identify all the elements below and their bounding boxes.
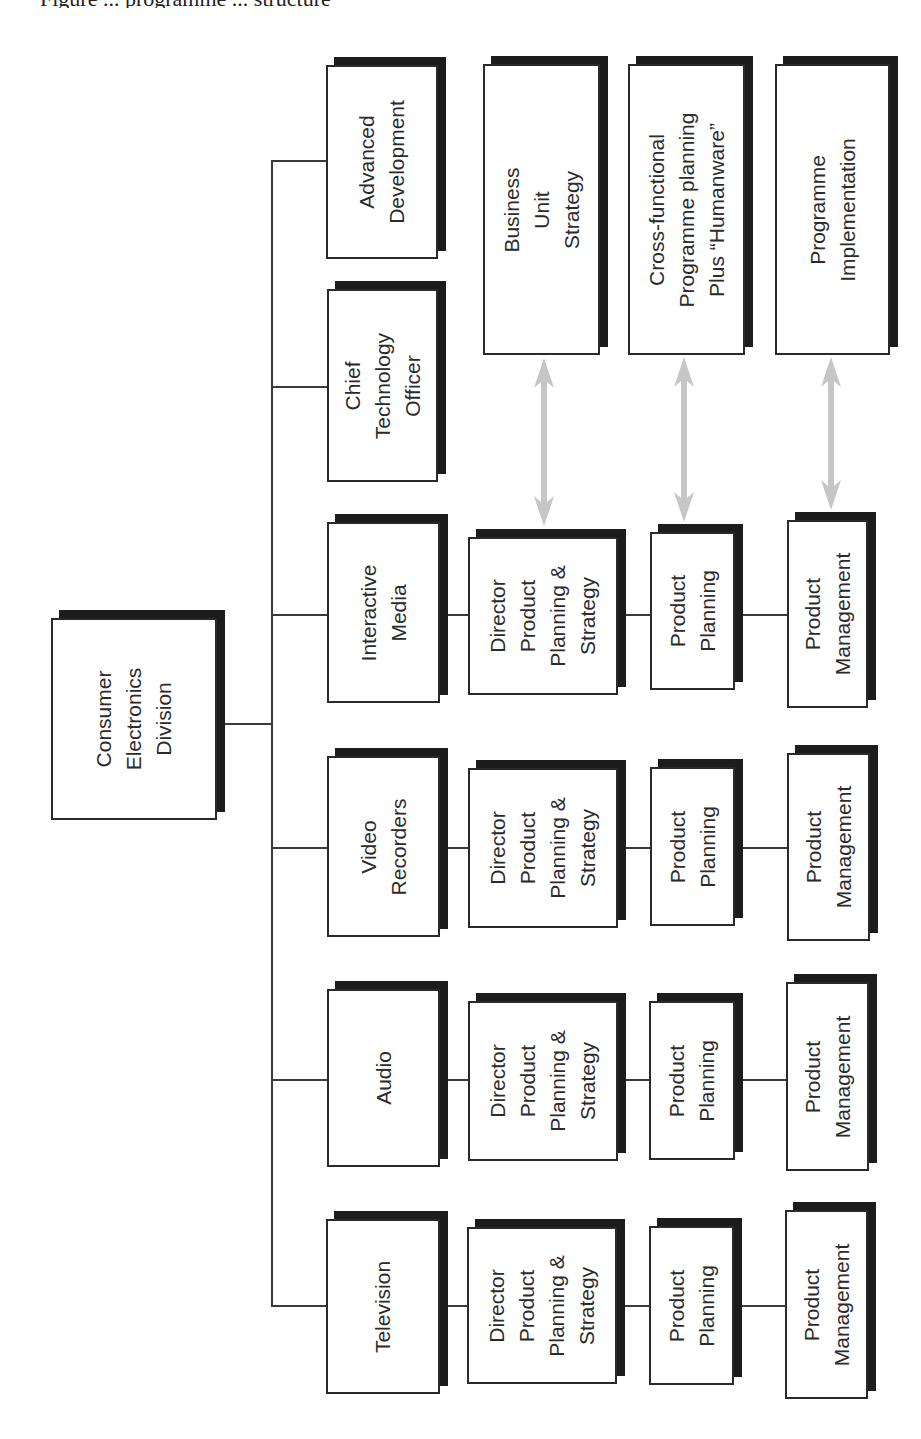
connector-audio-to-director	[448, 1079, 468, 1081]
box-frame: Product Planning	[649, 1226, 734, 1385]
box-label: Product Planning	[663, 570, 723, 652]
box-label: Advanced Development	[352, 100, 412, 224]
connector-interactive-media-to-director	[448, 614, 468, 616]
connector-video-recorders-planning-to-management	[743, 847, 787, 849]
connector-video-recorders-director-to-planning	[626, 847, 650, 849]
box-label: Product Planning	[662, 1040, 722, 1122]
connector-interactive-media-planning-to-management	[743, 614, 787, 616]
box-label: Programme Implementation	[803, 138, 863, 282]
box-label: Product Planning	[663, 806, 723, 888]
connector-television	[271, 1305, 326, 1307]
org-chart-canvas: Figure ... programme ... structure Consu…	[0, 0, 921, 1439]
box-frame: Consumer Electronics Division	[51, 618, 217, 820]
box-frame: Director Product Planning & Strategy	[467, 1227, 617, 1384]
box-frame: Video Recorders	[327, 756, 440, 937]
connector-interactive-media	[271, 614, 327, 616]
box-frame: Director Product Planning & Strategy	[468, 1001, 618, 1161]
box-frame: Director Product Planning & Strategy	[468, 768, 618, 928]
box-label: Director Product Planning & Strategy	[482, 1255, 602, 1357]
connector-video-recorders	[271, 847, 327, 849]
box-label: Television	[368, 1260, 398, 1352]
box-frame: Product Management	[786, 982, 869, 1171]
box-label: Interactive Media	[354, 564, 414, 661]
box-frame: Advanced Development	[326, 65, 438, 259]
box-label: Product Management	[798, 1015, 858, 1138]
connector-television-director-to-planning	[625, 1305, 649, 1307]
connector-chief-technology-officer	[271, 386, 327, 388]
connector-audio-planning-to-management	[743, 1079, 786, 1081]
connector-audio-director-to-planning	[626, 1079, 649, 1081]
box-label: Consumer Electronics Division	[89, 668, 179, 771]
box-frame: Product Planning	[649, 1001, 735, 1160]
box-label: Cross-functional Programme planning Plus…	[642, 112, 732, 307]
box-label: Video Recorders	[354, 798, 414, 895]
box-label: Director Product Planning & Strategy	[483, 565, 603, 667]
box-frame: Product Management	[787, 520, 868, 708]
box-frame: Business Unit Strategy	[483, 64, 600, 355]
box-frame: Interactive Media	[327, 522, 440, 703]
box-label: Product Management	[797, 1243, 857, 1366]
box-frame: Television	[326, 1219, 440, 1394]
root-connector-line	[217, 723, 271, 725]
box-label: Business Unit Strategy	[497, 167, 587, 252]
double-arrow-icon	[821, 357, 841, 510]
box-frame: Product Management	[785, 1210, 868, 1399]
box-frame: Director Product Planning & Strategy	[468, 537, 618, 695]
box-frame: Chief Technology Officer	[327, 289, 438, 482]
box-frame: Cross-functional Programme planning Plus…	[628, 64, 745, 355]
connector-television-planning-to-management	[742, 1305, 785, 1307]
box-label: Director Product Planning & Strategy	[483, 1030, 603, 1132]
double-arrow-icon	[674, 357, 694, 522]
box-frame: Product Planning	[650, 767, 735, 926]
box-label: Audio	[369, 1051, 399, 1105]
box-frame: Audio	[327, 989, 440, 1167]
box-label: Product Planning	[662, 1265, 722, 1347]
box-label: Product Management	[799, 786, 859, 909]
trunk-line	[271, 160, 273, 1306]
box-label: Product Management	[798, 553, 858, 676]
connector-interactive-media-director-to-planning	[626, 614, 650, 616]
connector-television-to-director	[448, 1305, 467, 1307]
box-label: Director Product Planning & Strategy	[483, 797, 603, 899]
box-label: Chief Technology Officer	[338, 332, 428, 438]
connector-advanced-development	[271, 160, 326, 162]
double-arrow-icon	[534, 358, 554, 526]
connector-audio	[271, 1079, 327, 1081]
box-frame: Product Management	[787, 753, 870, 941]
box-frame: Product Planning	[650, 532, 735, 690]
box-frame: Programme Implementation	[775, 64, 890, 355]
connector-video-recorders-to-director	[448, 847, 468, 849]
figure-caption-partial: Figure ... programme ... structure	[40, 0, 331, 8]
